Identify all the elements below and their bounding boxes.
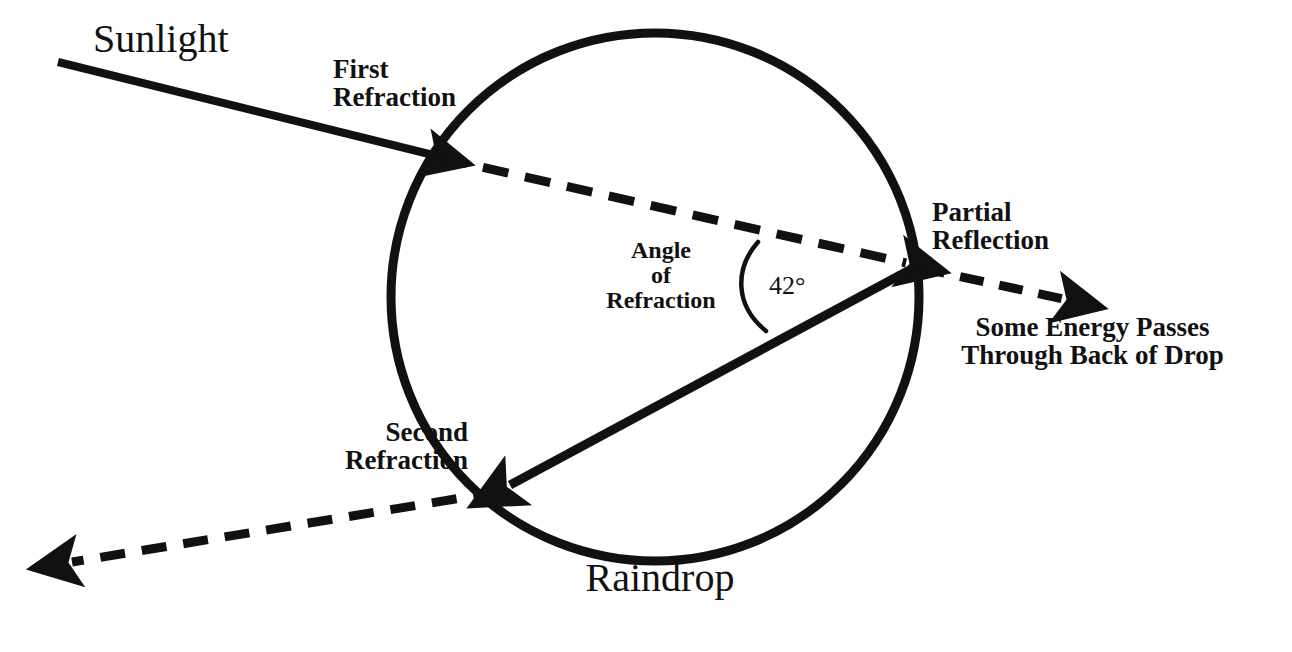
some-energy-label: Some Energy Passes Through Back of Drop bbox=[930, 313, 1255, 370]
first-refraction-label: First Refraction bbox=[333, 55, 456, 112]
sunlight-label: Sunlight bbox=[93, 18, 229, 60]
angle-of-refraction-label: Angle of Refraction bbox=[574, 238, 748, 314]
angle-value-label: 42° bbox=[769, 272, 805, 299]
exiting-refracted-ray bbox=[72, 492, 498, 562]
transmitted-back-ray bbox=[921, 268, 1063, 299]
second-refraction-label: Second Refraction bbox=[268, 418, 468, 475]
partial-reflection-label: Partial Reflection bbox=[932, 198, 1049, 255]
raindrop-label: Raindrop bbox=[540, 557, 780, 599]
raindrop-refraction-diagram: Sunlight First Refraction Angle of Refra… bbox=[0, 0, 1292, 652]
